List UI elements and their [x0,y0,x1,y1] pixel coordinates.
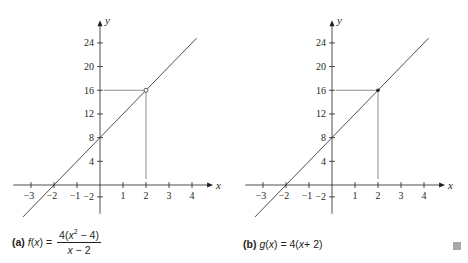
y-tick-label: −2 [315,191,326,202]
x-axis-arrow-icon [207,183,213,188]
caption-a-denominator: x − 2 [67,243,90,256]
x-tick-label: −3 [256,190,267,201]
y-tick-label: 4 [89,156,94,167]
y-tick-label: 24 [316,37,326,48]
x-axis-arrow-icon [439,183,445,188]
end-of-example-square-icon [453,242,461,250]
y-tick-label: 8 [321,132,326,143]
y-tick-label: 20 [316,61,326,72]
x-tick-label: 4 [422,190,427,201]
caption-a-fname: f [28,236,31,248]
caption-b: (b) g(x) = 4(x + 2) [243,238,322,250]
y-tick-label: −2 [83,191,94,202]
caption-b-post: + 2) [304,238,322,250]
y-axis-label: y [336,14,342,26]
x-tick-label: 4 [190,190,195,201]
x-axis-label: x [447,179,453,191]
x-tick-label: −1 [302,190,313,201]
x-tick-label: 1 [121,190,126,201]
x-tick-label: −1 [70,190,81,201]
y-tick-label: 20 [84,61,94,72]
filled-point [376,88,380,92]
x-tick-label: 3 [399,190,404,201]
y-axis-arrow-icon [98,20,103,26]
y-tick-label: 12 [84,108,94,119]
caption-a-fraction: 4(x2 − 4) x − 2 [57,228,101,256]
caption-a-tag: (a) [12,236,25,248]
caption-b-eq: = 4( [280,238,298,250]
y-tick-label: 12 [316,108,326,119]
caption-a: (a) f(x) = 4(x2 − 4) x − 2 [12,228,101,256]
x-tick-label: 2 [376,190,381,201]
caption-b-var: x [269,238,274,250]
caption-a-var: x [34,236,39,248]
y-tick-label: 24 [84,37,94,48]
x-tick-label: −2 [47,190,58,201]
y-tick-label: 8 [89,132,94,143]
y-tick-label: 16 [316,85,326,96]
y-axis-label: y [104,14,110,26]
x-axis-label: x [215,179,221,191]
x-tick-label: 3 [167,190,172,201]
y-tick-label: 4 [321,156,326,167]
plot-b: xy−3−2−11234−24812162024 [234,0,468,226]
x-tick-label: −3 [24,190,35,201]
x-tick-label: −2 [279,190,290,201]
open-circle-point [144,88,148,92]
y-tick-label: 16 [84,85,94,96]
caption-a-numerator: 4(x2 − 4) [57,228,101,243]
x-tick-label: 2 [144,190,149,201]
plot-a: xy−3−2−11234−24812162024 [0,0,234,226]
caption-b-fname: g [259,238,265,250]
y-axis-arrow-icon [330,20,335,26]
caption-a-eq: = [46,236,52,248]
caption-b-tag: (b) [243,238,256,250]
x-tick-label: 1 [353,190,358,201]
